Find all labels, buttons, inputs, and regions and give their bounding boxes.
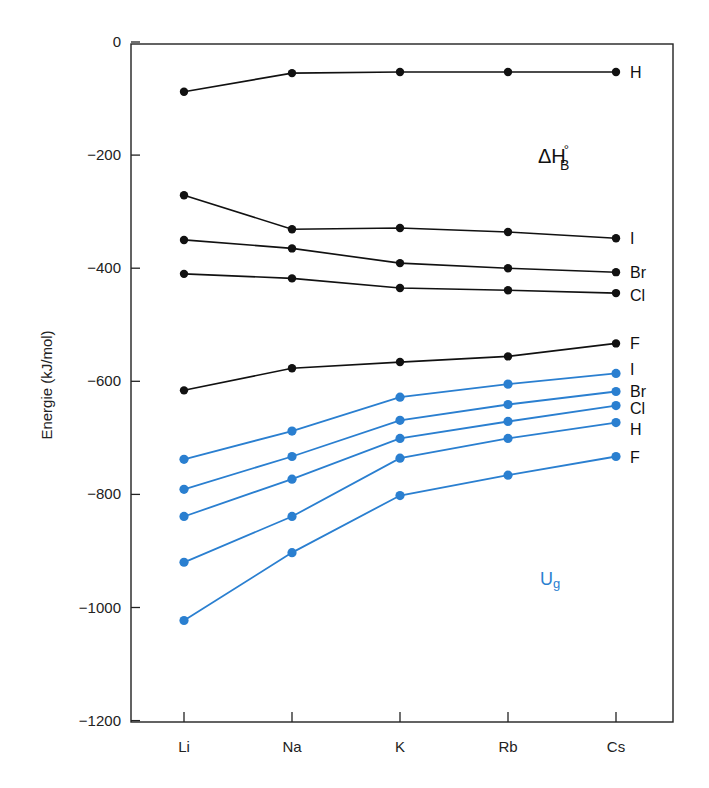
- data-point: [395, 416, 404, 425]
- data-point: [612, 289, 620, 297]
- series-label-dh-f: F: [630, 335, 640, 352]
- data-point: [395, 434, 404, 443]
- data-point: [288, 274, 296, 282]
- line-ug-f: [184, 457, 616, 621]
- data-point: [396, 284, 404, 292]
- y-tick-label: −200: [87, 146, 121, 163]
- data-point: [288, 244, 296, 252]
- y-tick-label: −1000: [79, 599, 121, 616]
- series-label-dh-h: H: [630, 64, 642, 81]
- data-point: [287, 548, 296, 557]
- series-label-dh-br: Br: [630, 264, 647, 281]
- data-point: [504, 286, 512, 294]
- data-point: [504, 68, 512, 76]
- x-tick-label-na: Na: [282, 738, 302, 755]
- data-point: [611, 369, 620, 378]
- y-tick-label: −600: [87, 372, 121, 389]
- data-point: [396, 259, 404, 267]
- data-point: [503, 434, 512, 443]
- data-point: [612, 234, 620, 242]
- y-tick-label: −1200: [79, 712, 121, 729]
- series-labels: HIBrClFIBrClHF: [630, 64, 647, 466]
- y-tick-label: −800: [87, 485, 121, 502]
- data-point: [288, 69, 296, 77]
- series-label-ug-f: F: [630, 449, 640, 466]
- axes: 0−200−400−600−800−1000−1200LiNaKRbCs: [79, 33, 673, 755]
- x-tick-label-rb: Rb: [498, 738, 517, 755]
- data-point: [179, 616, 188, 625]
- data-point: [287, 452, 296, 461]
- line-dh-br: [184, 240, 616, 272]
- y-axis-title: Energie (kJ/mol): [38, 330, 55, 439]
- data-point: [395, 393, 404, 402]
- data-point: [503, 400, 512, 409]
- data-point: [503, 417, 512, 426]
- data-point: [179, 485, 188, 494]
- data-point: [180, 386, 188, 394]
- data-point: [612, 268, 620, 276]
- data-point: [503, 471, 512, 480]
- annotation-ug: Ug: [540, 569, 560, 591]
- data-point: [179, 558, 188, 567]
- data-point: [287, 475, 296, 484]
- x-tick-label-cs: Cs: [607, 738, 625, 755]
- data-point: [504, 352, 512, 360]
- data-point: [288, 225, 296, 233]
- data-point: [395, 454, 404, 463]
- data-point: [396, 224, 404, 232]
- y-tick-label: −400: [87, 259, 121, 276]
- series-label-ug-h: H: [630, 421, 642, 438]
- annotation-delta-h: ΔH°B: [538, 142, 569, 173]
- series-label-ug-br: Br: [630, 383, 647, 400]
- series-label-ug-i: I: [630, 361, 634, 378]
- data-point: [179, 455, 188, 464]
- data-point: [611, 401, 620, 410]
- data-point: [180, 191, 188, 199]
- series-label-ug-cl: Cl: [630, 400, 645, 417]
- data-point: [180, 88, 188, 96]
- data-point: [611, 452, 620, 461]
- line-dh-f: [184, 343, 616, 390]
- data-point: [612, 68, 620, 76]
- data-point: [180, 236, 188, 244]
- data-point: [180, 270, 188, 278]
- y-tick-label: 0: [113, 33, 121, 50]
- chart: 0−200−400−600−800−1000−1200LiNaKRbCs HIB…: [0, 0, 709, 788]
- data-point: [287, 512, 296, 521]
- data-point: [395, 491, 404, 500]
- x-tick-label-k: K: [395, 738, 405, 755]
- data-point: [504, 264, 512, 272]
- data-point: [612, 339, 620, 347]
- data-point: [287, 426, 296, 435]
- data-point: [611, 418, 620, 427]
- series-label-dh-i: I: [630, 230, 634, 247]
- data-point: [504, 228, 512, 236]
- data-point: [503, 380, 512, 389]
- x-tick-label-li: Li: [178, 738, 190, 755]
- data-point: [611, 387, 620, 396]
- series-label-dh-cl: Cl: [630, 287, 645, 304]
- data-point: [179, 512, 188, 521]
- data-point: [288, 364, 296, 372]
- data-point: [396, 358, 404, 366]
- data-point: [396, 68, 404, 76]
- plot-frame: [131, 44, 673, 722]
